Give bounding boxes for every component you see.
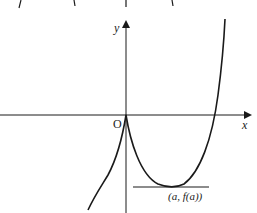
minimum-point-label: (a, f(a)): [168, 190, 203, 203]
cropped-fragments: [19, 0, 173, 8]
y-axis-label: y: [113, 21, 120, 35]
x-axis-label: x: [241, 118, 248, 132]
function-graph: y x O (a, f(a)): [0, 0, 257, 213]
origin-label: O: [113, 117, 122, 131]
